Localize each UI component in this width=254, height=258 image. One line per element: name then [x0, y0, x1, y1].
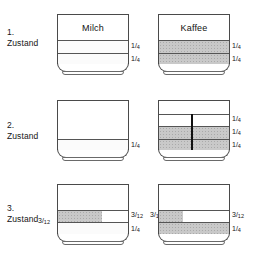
state-label-1: 1. Zustand: [7, 27, 57, 49]
glass-body: [57, 184, 129, 234]
glass-foot: [62, 157, 124, 161]
split-coffee-part: [159, 211, 184, 222]
fraction-label: 1/4: [232, 115, 241, 124]
vertical-divider-line: [191, 114, 193, 150]
glass-coffee-state-1: Kaffee: [158, 14, 230, 77]
state-row-3: 3. Zustand 3/12 3/12 1/4: [0, 181, 254, 255]
glass-foot: [163, 157, 225, 161]
glass-foot: [62, 241, 124, 245]
glass-foot: [62, 71, 124, 75]
glass-foot: [163, 241, 225, 245]
layer-empty: [58, 101, 128, 139]
split-empty-part: [183, 211, 229, 222]
fraction-label: 1/4: [131, 42, 140, 51]
layer-empty: [58, 185, 128, 210]
glass-milk-state-2: [57, 100, 129, 163]
glass-foot: [163, 71, 225, 75]
glass-body: [158, 14, 230, 64]
state-label-2: 2. Zustand: [7, 120, 57, 142]
fraction-label: 1/4: [232, 141, 241, 150]
state-number-3: 3.: [7, 203, 57, 214]
state-row-2: 2. Zustand 1/4: [0, 96, 254, 174]
layer-coffee-1: [159, 126, 229, 139]
fraction-label: 3/12: [232, 211, 244, 220]
layer-empty: [159, 185, 229, 210]
milk-coffee-fraction-diagram: 1. Zustand Milch 1/4 1/4: [0, 0, 254, 258]
fraction-label: 1/4: [232, 42, 241, 51]
state-number-1: 1.: [7, 27, 57, 38]
fraction-label: 1/4: [131, 141, 140, 150]
fraction-label: 1/4: [232, 225, 241, 234]
fraction-label: 1/4: [131, 225, 140, 234]
split-empty-part: [102, 211, 128, 222]
layer-coffee-1: [159, 40, 229, 53]
state-row-1: 1. Zustand Milch 1/4 1/4: [0, 10, 254, 88]
glass-milk-state-1: Milch: [57, 14, 129, 77]
glass-caption-coffee: Kaffee: [158, 23, 230, 33]
split-coffee-part: [58, 211, 103, 222]
fraction-label: 3/12: [38, 217, 50, 226]
fraction-label: 3/12: [131, 211, 143, 220]
glass-body: [158, 100, 230, 150]
glass-caption-milk: Milch: [57, 23, 129, 33]
layer-empty: [159, 101, 229, 114]
layer-milk-1: [159, 114, 229, 126]
fraction-label: 1/4: [131, 55, 140, 64]
glass-body: [57, 100, 129, 150]
layer-split-band: [159, 210, 229, 223]
glass-coffee-state-3: [158, 184, 230, 246]
glass-milk-state-3: [57, 184, 129, 246]
layer-milk-1: [58, 40, 128, 53]
fraction-label: 1/4: [232, 55, 241, 64]
state-word-2: Zustand: [7, 131, 57, 142]
state-word-1: Zustand: [7, 38, 57, 49]
glass-body: [57, 14, 129, 64]
glass-body: [158, 184, 230, 234]
layer-split-band: [58, 210, 128, 223]
state-number-2: 2.: [7, 120, 57, 131]
fraction-label: 1/4: [232, 128, 241, 137]
glass-coffee-state-2: [158, 100, 230, 163]
